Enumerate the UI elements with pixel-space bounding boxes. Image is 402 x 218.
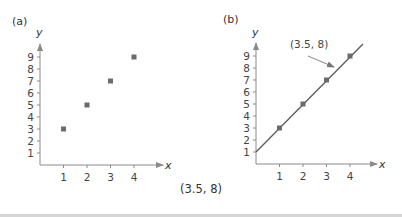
panel-b-y-tick-label: 1 — [243, 146, 250, 158]
data-point — [61, 127, 66, 132]
data-point — [301, 102, 306, 107]
data-point — [108, 79, 113, 84]
panel-a-y-tick-label: 4 — [27, 111, 34, 123]
data-point — [85, 103, 90, 108]
panel-b-x-tick-label: 3 — [323, 170, 330, 182]
panel-b-y-tick-label: 6 — [243, 86, 250, 98]
panel-b-x-tick-label: 1 — [276, 170, 283, 182]
panel-b-y-tick-label: 7 — [243, 74, 250, 86]
data-point — [324, 78, 329, 83]
panel-b-y-tick-label: 5 — [243, 98, 250, 110]
data-point — [132, 55, 137, 60]
panel-b-y-tick-label: 2 — [243, 134, 250, 146]
panel-a-points — [61, 55, 137, 132]
data-point — [348, 54, 353, 59]
panel-b-y-tick-label: 3 — [243, 122, 250, 134]
annotation-arrow — [308, 56, 334, 67]
panel-b-x-axis-name: x — [378, 158, 386, 171]
panel-b-y-tick-label: 4 — [243, 110, 250, 122]
panel-a: (a) y x 1 2 3 4 5 6 7 8 9 — [12, 15, 172, 183]
caption: (3.5, 8) — [0, 182, 402, 196]
panel-b-label: (b) — [223, 13, 239, 26]
panel-b-y-axis-name: y — [251, 26, 259, 39]
panel-b: (b) y x 1 2 3 4 5 6 7 8 9 1 2 — [223, 13, 386, 182]
panel-a-y-tick-label: 2 — [27, 135, 34, 147]
panel-a-label: (a) — [12, 15, 27, 28]
divider — [0, 214, 402, 217]
panel-b-x-tick-label: 4 — [347, 170, 354, 182]
data-point — [277, 126, 282, 131]
panel-b-y-tick-label: 8 — [243, 62, 250, 74]
panel-a-y-tick-label: 6 — [27, 87, 34, 99]
panel-a-y-tick-label: 3 — [27, 123, 34, 135]
panel-a-x-axis-name: x — [164, 159, 172, 172]
panel-b-x-tick-label: 2 — [300, 170, 307, 182]
panel-a-y-tick-label: 5 — [27, 99, 34, 111]
panel-a-y-tick-label: 9 — [27, 51, 34, 63]
annotation-label: (3.5, 8) — [290, 38, 328, 50]
panel-a-y-tick-label: 8 — [27, 63, 34, 75]
panel-b-y-tick-label: 9 — [243, 50, 250, 62]
panel-a-y-axis-name: y — [35, 26, 43, 39]
panel-a-y-tick-label: 1 — [27, 147, 34, 159]
panel-a-y-tick-label: 7 — [27, 75, 34, 87]
regression-line — [256, 44, 363, 152]
